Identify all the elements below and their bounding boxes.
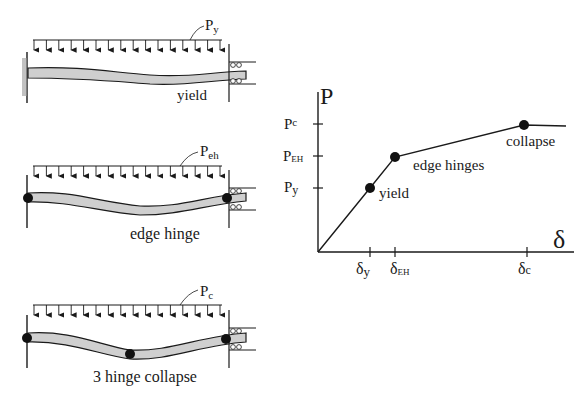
point-edge-hinges	[390, 152, 400, 162]
load-deflection-chart: P δ Pc PEH Py δy δEH δc yield edge hinge…	[283, 83, 574, 279]
load-label-py: Py	[205, 17, 219, 35]
load-label-pc: Pc	[200, 283, 213, 301]
diagram-root: Py yield Peh edge hinge	[0, 0, 582, 407]
load-leader-line	[180, 152, 198, 166]
beam-caption-edge-hinge: edge hinge	[130, 225, 200, 243]
beam-edge-hinge: Peh edge hinge	[23, 143, 256, 243]
beam-collapse: Pc 3 hinge collapse	[22, 283, 256, 386]
load-leader-line	[180, 290, 198, 305]
beam-body	[28, 68, 246, 85]
y-tick-peh: PEH	[283, 148, 304, 164]
point-yield	[365, 183, 375, 193]
x-axis-label: δ	[553, 225, 565, 254]
beam-caption-yield: yield	[177, 87, 207, 103]
x-tick-dc: δc	[518, 260, 531, 277]
x-tick-deh: δEH	[390, 260, 410, 277]
beam-caption-collapse: 3 hinge collapse	[93, 368, 197, 386]
distributed-load-arrows	[34, 305, 220, 315]
plastic-hinge-left	[22, 333, 32, 343]
plastic-hinge-right	[221, 334, 231, 344]
y-tick-py: Py	[284, 179, 298, 197]
annotation-collapse: collapse	[506, 133, 555, 149]
y-axis-label: P	[320, 83, 333, 109]
annotation-yield: yield	[379, 185, 409, 201]
load-leader-line	[190, 26, 204, 40]
point-collapse	[519, 120, 529, 130]
y-tick-pc: Pc	[284, 116, 297, 132]
annotation-edge-hinges: edge hinges	[413, 157, 484, 173]
plastic-hinge-left	[23, 193, 33, 203]
beam-body	[28, 193, 246, 215]
plastic-hinge-right	[222, 193, 232, 203]
distributed-load-arrows	[34, 40, 220, 50]
beam-yield: Py yield	[22, 17, 256, 103]
x-tick-dy: δy	[356, 260, 371, 279]
diagram-canvas: Py yield Peh edge hinge	[0, 0, 582, 407]
distributed-load-arrows	[34, 166, 220, 176]
beam-body	[28, 333, 246, 360]
load-label-peh: Peh	[200, 143, 219, 161]
plastic-hinge-mid	[125, 349, 135, 359]
